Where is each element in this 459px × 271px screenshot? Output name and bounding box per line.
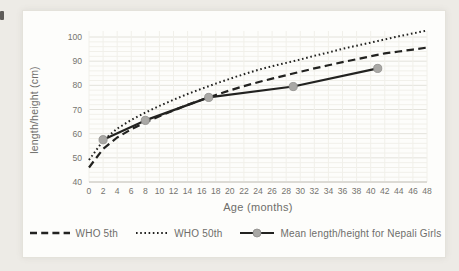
- chart-legend: WHO 5th WHO 50th Mean length/height for …: [23, 227, 447, 239]
- x-tick-label: 2: [101, 186, 106, 196]
- x-tick-label: 12: [169, 186, 179, 196]
- x-tick-label: 0: [87, 186, 92, 196]
- data-point-marker: [374, 64, 382, 72]
- chart-panel: 4050607080901000246810121416182022242628…: [22, 10, 446, 258]
- x-tick-label: 36: [338, 186, 348, 196]
- legend-item-nepali-girls: Mean length/height for Nepali Girls: [239, 227, 441, 239]
- legend-label: WHO 50th: [174, 228, 222, 239]
- x-tick-label: 18: [211, 186, 221, 196]
- x-tick-label: 46: [408, 186, 418, 196]
- x-tick-label: 34: [324, 186, 334, 196]
- x-tick-label: 8: [143, 186, 148, 196]
- x-tick-label: 4: [115, 186, 120, 196]
- x-tick-label: 6: [129, 186, 134, 196]
- x-tick-label: 38: [352, 186, 362, 196]
- data-point-marker: [99, 136, 107, 144]
- legend-item-who-5th: WHO 5th: [29, 228, 119, 239]
- x-tick-label: 44: [394, 186, 404, 196]
- x-tick-label: 26: [267, 186, 277, 196]
- data-point-marker: [205, 93, 213, 101]
- dotted-line-sample-icon: [135, 228, 169, 238]
- x-tick-label: 40: [366, 186, 376, 196]
- y-tick-label: 70: [72, 105, 82, 115]
- y-tick-label: 90: [72, 56, 82, 66]
- y-tick-label: 50: [72, 153, 82, 163]
- x-tick-label: 10: [155, 186, 165, 196]
- legend-item-who-50th: WHO 50th: [135, 228, 222, 239]
- data-point-marker: [141, 116, 149, 124]
- x-tick-label: 16: [197, 186, 207, 196]
- x-tick-label: 32: [310, 186, 320, 196]
- x-tick-label: 42: [380, 186, 390, 196]
- y-tick-label: 60: [72, 129, 82, 139]
- x-tick-label: 24: [253, 186, 263, 196]
- y-tick-label: 40: [72, 177, 82, 187]
- dashed-line-sample-icon: [29, 228, 71, 238]
- photo-corner-artifact: [0, 11, 4, 20]
- y-tick-label: 80: [72, 80, 82, 90]
- legend-label: Mean length/height for Nepali Girls: [280, 228, 441, 239]
- photographed-page-background: 4050607080901000246810121416182022242628…: [0, 0, 459, 271]
- y-tick-label: 100: [68, 32, 83, 42]
- x-tick-label: 20: [225, 186, 235, 196]
- data-point-marker: [289, 82, 297, 90]
- x-tick-label: 30: [295, 186, 305, 196]
- y-axis-title: length/height (cm): [28, 40, 42, 180]
- x-axis-title: Age (months): [89, 201, 427, 213]
- x-tick-label: 22: [239, 186, 249, 196]
- x-tick-label: 14: [183, 186, 193, 196]
- x-tick-label: 48: [422, 186, 432, 196]
- plot-area: 4050607080901000246810121416182022242628…: [23, 11, 445, 257]
- legend-label: WHO 5th: [76, 228, 119, 239]
- x-tick-label: 28: [281, 186, 291, 196]
- solid-line-with-marker-sample-icon: [239, 227, 275, 239]
